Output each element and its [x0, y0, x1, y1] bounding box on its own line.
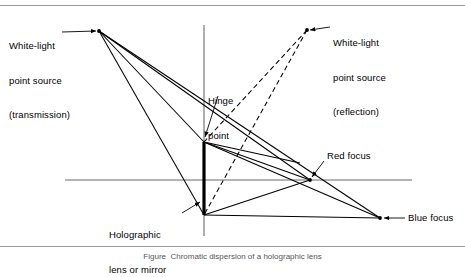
label-transmission-line-3: (transmission) — [9, 109, 70, 121]
label-hinge-line-1: Hinge — [208, 95, 233, 107]
label-reflection-line-3: (reflection) — [333, 106, 386, 118]
label-holographic-line-1: Holographic — [109, 229, 166, 241]
point-marker-reflection-source — [305, 28, 309, 32]
label-transmission-line-1: White-light — [9, 40, 70, 52]
label-reflection-line-1: White-light — [333, 37, 386, 49]
point-marker-blue-focus — [378, 216, 382, 220]
label-red-focus: Red focus — [327, 150, 371, 162]
figure-caption: Figure Chromatic dispersion of a hologra… — [0, 252, 465, 261]
point-marker-transmission-source — [97, 29, 101, 33]
label-blue-focus: Blue focus — [408, 212, 453, 224]
label-white-light-source-transmission: White-light point source (transmission) — [9, 17, 70, 132]
label-hinge-point: Hinge point — [208, 72, 233, 153]
label-hinge-line-2: point — [208, 130, 233, 142]
label-holographic-lens-or-mirror: Holographic lens or mirror — [109, 206, 166, 277]
point-marker-red-focus — [308, 178, 312, 182]
label-holographic-line-2: lens or mirror — [109, 264, 166, 276]
label-white-light-source-reflection: White-light point source (reflection) — [333, 14, 386, 129]
label-transmission-line-2: point source — [9, 75, 70, 87]
label-reflection-line-2: point source — [333, 72, 386, 84]
